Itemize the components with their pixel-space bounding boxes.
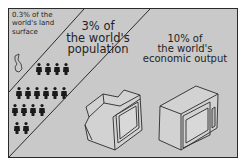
economic-output-label: 10% of the world's economic output: [130, 34, 240, 64]
person-row-1: [36, 63, 69, 75]
country-map-icon: [15, 54, 22, 72]
economy-line-3: economic output: [130, 54, 240, 64]
land-line-2: world's land: [12, 19, 54, 27]
land-line-3: surface: [12, 28, 54, 36]
land-surface-label: 0.3% of the world's land surface: [12, 11, 54, 36]
microwave-icon: [159, 86, 218, 150]
television-icon: [85, 90, 142, 150]
person-row-2: [16, 87, 67, 99]
person-row-3: [12, 104, 45, 116]
land-line-1: 0.3% of the: [12, 11, 54, 19]
person-row-4: [14, 122, 29, 134]
